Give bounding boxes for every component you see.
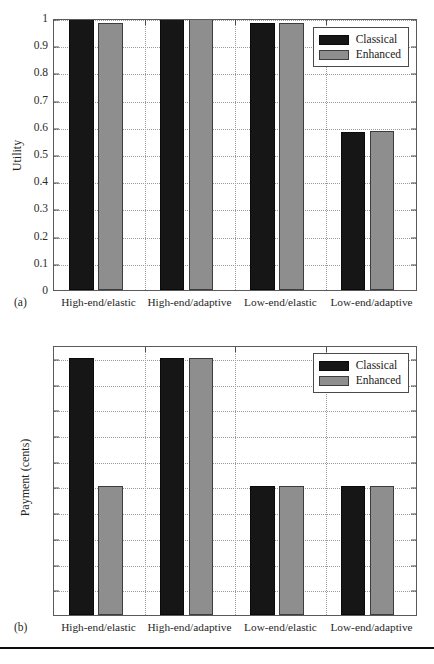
bar-enhanced	[279, 23, 303, 290]
y-axis-tick-label: 1	[0, 13, 48, 25]
legend-swatch-enhanced-icon	[319, 376, 349, 386]
bar-group	[54, 347, 145, 615]
legend-label-classical: Classical	[356, 359, 398, 372]
y-axis-tick-label: 0.5	[0, 149, 48, 161]
bar-classical	[250, 486, 274, 615]
bar-enhanced	[189, 19, 213, 290]
legend-entry-classical: Classical	[319, 358, 401, 373]
x-axis-category-label: Low-end/adaptive	[326, 621, 417, 633]
bar-group	[54, 20, 145, 290]
y-axis-tick-label: 0.4	[0, 176, 48, 188]
y-axis-tick-label: 0.7	[0, 95, 48, 107]
panel-tag-b: (b)	[14, 621, 27, 633]
bar-classical	[69, 358, 93, 615]
bar-enhanced	[98, 486, 122, 615]
legend-b: Classical Enhanced	[313, 353, 409, 393]
plot-area-a: Classical Enhanced	[53, 19, 417, 291]
legend-swatch-classical-icon	[319, 361, 349, 371]
y-axis-tick-label: 0.2	[0, 231, 48, 243]
legend-a: Classical Enhanced	[313, 27, 409, 67]
legend-entry-classical: Classical	[319, 32, 401, 47]
legend-label-classical: Classical	[356, 33, 398, 46]
x-axis-category-labels-a: High-end/elasticHigh-end/adaptiveLow-end…	[53, 296, 417, 308]
bar-enhanced	[189, 358, 213, 615]
bar-classical	[69, 19, 93, 290]
x-axis-category-label: Low-end/elastic	[235, 296, 326, 308]
bar-enhanced	[370, 131, 394, 290]
legend-label-enhanced: Enhanced	[356, 48, 401, 61]
footer-divider	[0, 647, 434, 649]
bar-enhanced	[370, 486, 394, 615]
bar-enhanced	[98, 23, 122, 290]
legend-label-enhanced: Enhanced	[356, 374, 401, 387]
y-axis-tick-label: 0.1	[0, 258, 48, 270]
y-axis-tick-label: 0.6	[0, 122, 48, 134]
bar-group	[145, 20, 236, 290]
bar-classical	[160, 358, 184, 615]
y-axis-tick-label: 0.3	[0, 204, 48, 216]
plot-area-b: Classical Enhanced	[53, 346, 417, 616]
x-axis-category-label: High-end/adaptive	[144, 621, 235, 633]
chart-panel-a: Utility 10.90.80.70.60.50.40.30.20.10 Cl…	[0, 0, 434, 330]
bar-classical	[341, 132, 365, 290]
bar-classical	[250, 23, 274, 290]
panel-tag-a: (a)	[14, 296, 27, 308]
x-axis-category-label: High-end/elastic	[53, 296, 144, 308]
legend-swatch-enhanced-icon	[319, 50, 349, 60]
legend-swatch-classical-icon	[319, 35, 349, 45]
x-axis-category-labels-b: High-end/elasticHigh-end/adaptiveLow-end…	[53, 621, 417, 633]
x-axis-category-label: High-end/elastic	[53, 621, 144, 633]
panel-a-body: Utility 10.90.80.70.60.50.40.30.20.10 Cl…	[0, 0, 434, 330]
chart-panel-b: Payment (cents) 109876543210 Classical E…	[0, 330, 434, 640]
legend-entry-enhanced: Enhanced	[319, 47, 401, 62]
panel-b-body: Payment (cents) 109876543210 Classical E…	[0, 330, 434, 640]
bar-group	[145, 347, 236, 615]
x-axis-category-label: High-end/adaptive	[144, 296, 235, 308]
bar-classical	[160, 19, 184, 290]
y-axis-tick-label: 0.8	[0, 68, 48, 80]
x-axis-category-label: Low-end/adaptive	[326, 296, 417, 308]
legend-entry-enhanced: Enhanced	[319, 373, 401, 388]
x-axis-category-label: Low-end/elastic	[235, 621, 326, 633]
y-axis-title-b: Payment (cents)	[18, 423, 33, 533]
bar-classical	[341, 486, 365, 615]
bar-enhanced	[279, 486, 303, 615]
y-axis-tick-label: 0.9	[0, 40, 48, 52]
